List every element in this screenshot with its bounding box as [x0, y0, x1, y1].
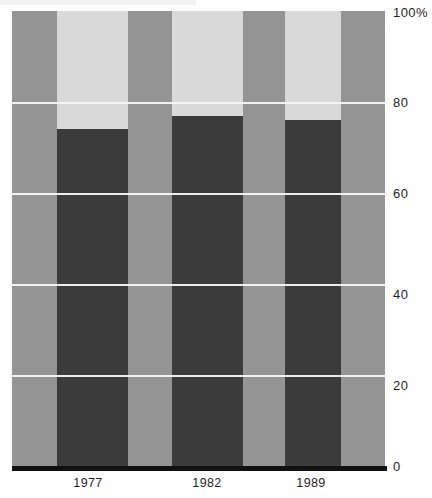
y-tick-label-0: 0 — [393, 460, 401, 473]
chart-root: 100% 80 60 40 20 0 1977 1982 1989 — [0, 0, 432, 498]
x-tick-label-1977: 1977 — [58, 477, 118, 490]
y-tick-label-40: 40 — [393, 288, 408, 301]
x-tick-label-1989: 1989 — [281, 477, 341, 490]
x-tick-label-1982: 1982 — [177, 477, 237, 490]
y-tick-label-20: 20 — [393, 379, 408, 392]
gridline-40 — [12, 284, 385, 286]
x-axis-line — [12, 466, 387, 471]
y-tick-label-60: 60 — [393, 187, 408, 200]
plot-area — [12, 11, 385, 466]
background-band-gap-2 — [243, 11, 285, 466]
background-band-gap-1 — [128, 11, 172, 466]
y-tick-label-100: 100% — [393, 6, 428, 19]
gridline-80 — [12, 102, 385, 104]
top-scan-band — [0, 0, 196, 5]
gridline-20 — [12, 375, 385, 377]
bar-dark-1989 — [285, 120, 341, 466]
background-band-right — [341, 11, 385, 466]
gridline-60 — [12, 193, 385, 195]
bar-dark-1977 — [57, 129, 128, 466]
background-band-left — [12, 11, 57, 466]
y-tick-label-80: 80 — [393, 96, 408, 109]
bar-dark-1982 — [172, 116, 243, 466]
